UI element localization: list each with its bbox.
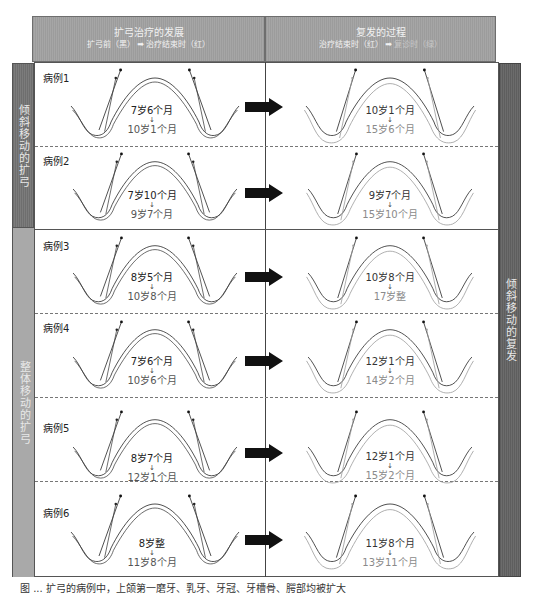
header-title: 复发的过程: [266, 27, 495, 39]
relapse-ages: 9岁7个月 ↓ 15岁10个月: [345, 189, 435, 221]
right-arrow-icon: ➡: [137, 40, 144, 49]
right-arrow-icon: ➡: [385, 40, 392, 49]
right-arrow-icon: [245, 531, 283, 549]
right-arrow-icon: [245, 444, 283, 462]
treatment-ages: 7岁6个月 ↓ 10岁1个月: [107, 104, 197, 136]
header-relapse-process: 复发的过程 治疗结束时（红） ➡ 复诊时（绿）: [265, 16, 496, 62]
treatment-ages: 8岁7个月 ↓ 12岁1个月: [107, 452, 197, 484]
right-arrow-icon: [245, 352, 283, 370]
relapse-ages: 11岁8个月 ↓ 13岁11个月: [345, 537, 435, 569]
relapse-ages: 12岁1个月 ↓ 14岁2个月: [345, 355, 435, 387]
relapse-ages: 10岁1个月 ↓ 15岁6个月: [345, 104, 435, 136]
treatment-ages: 8岁整 ↓ 11岁8个月: [107, 537, 197, 569]
header-expansion-development: 扩弓治疗的发展 扩弓前（黑） ➡ 治疗结束时（红）: [32, 16, 265, 62]
relapse-ages: 12岁1个月 ↓ 15岁2个月: [345, 450, 435, 482]
subtitle-after: 治疗结束时（红）: [146, 40, 210, 49]
header-title: 扩弓治疗的发展: [33, 27, 264, 39]
figure-caption: 图 ... 扩弓的病例中，上颌第一磨牙、乳牙、牙冠、牙槽骨、腭部均被扩大: [20, 580, 346, 595]
band-bodily-expansion: 整体移动的扩弓: [12, 228, 34, 577]
age-after: 10岁8个月: [107, 290, 197, 303]
right-arrow-icon: [245, 268, 283, 286]
subtitle-after: 复诊时（绿）: [394, 40, 442, 49]
right-arrow-icon: [245, 184, 283, 202]
age-after: 9岁7个月: [107, 208, 197, 221]
header-subtitle: 扩弓前（黑） ➡ 治疗结束时（红）: [33, 39, 264, 50]
age-after: 12岁1个月: [107, 471, 197, 484]
right-arrow-icon: [245, 98, 283, 116]
band-tipping-expansion: 倾斜移动的扩弓: [12, 63, 34, 228]
relapse-ages: 10岁8个月 ↓ 17岁整: [345, 271, 435, 303]
age-after: 15岁10个月: [345, 208, 435, 221]
treatment-ages: 7岁10个月 ↓ 9岁7个月: [107, 189, 197, 221]
treatment-ages: 7岁6个月 ↓ 10岁6个月: [107, 355, 197, 387]
subtitle-before: 扩弓前（黑）: [87, 40, 135, 49]
age-after: 15岁6个月: [345, 123, 435, 136]
age-after: 10岁6个月: [107, 374, 197, 387]
age-after: 14岁2个月: [345, 374, 435, 387]
age-after: 11岁8个月: [107, 556, 197, 569]
age-after: 17岁整: [345, 290, 435, 303]
age-after: 15岁2个月: [345, 469, 435, 482]
subtitle-before: 治疗结束时（红）: [319, 40, 383, 49]
age-after: 10岁1个月: [107, 123, 197, 136]
treatment-ages: 8岁5个月 ↓ 10岁8个月: [107, 271, 197, 303]
band-tipping-relapse: 倾斜移动的复发: [499, 63, 521, 577]
header-subtitle: 治疗结束时（红） ➡ 复诊时（绿）: [266, 39, 495, 50]
age-after: 13岁11个月: [345, 556, 435, 569]
